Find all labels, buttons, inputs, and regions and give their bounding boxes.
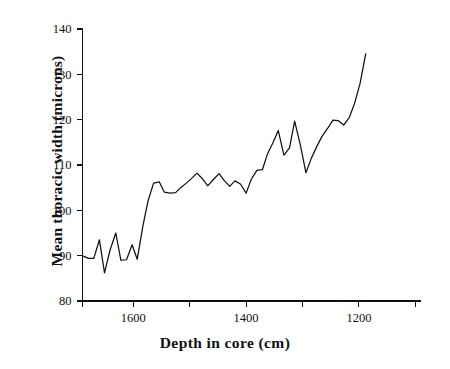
y-tick-label-90: 90 (59, 249, 72, 263)
x-axis-tick-labels: 160014001200 (121, 311, 372, 325)
y-axis-tick-marks (77, 29, 83, 301)
y-tick-label-80: 80 (59, 294, 72, 308)
y-tick-label-120: 120 (53, 113, 72, 127)
y-tick-label-110: 110 (53, 158, 71, 172)
line-chart-plot: 8090100110120130140 160014001200 (0, 0, 450, 369)
y-tick-label-100: 100 (53, 204, 72, 218)
x-tick-label-1400: 1400 (234, 311, 259, 325)
x-axis-tick-marks (83, 301, 416, 307)
chart-figure: Mean thoracic width (microns) Depth in c… (0, 0, 450, 369)
y-tick-label-130: 130 (53, 68, 72, 82)
x-tick-label-1200: 1200 (346, 311, 371, 325)
x-tick-label-1600: 1600 (121, 311, 146, 325)
data-series-line (83, 54, 366, 273)
y-axis-tick-labels: 8090100110120130140 (53, 22, 72, 308)
y-tick-label-140: 140 (53, 22, 72, 36)
